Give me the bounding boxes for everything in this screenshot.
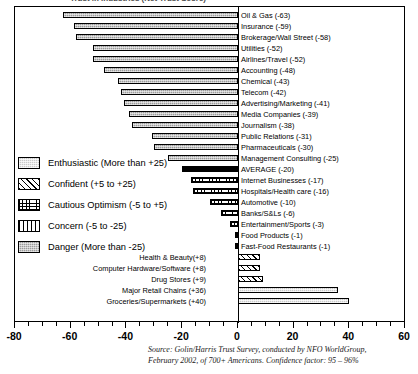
legend-swatch-confident bbox=[18, 178, 40, 190]
legend-swatch-enthusiastic bbox=[18, 157, 40, 169]
axis-tick-minor bbox=[334, 322, 335, 326]
x-axis-tick-label: -20 bbox=[174, 330, 189, 342]
legend-swatch-danger bbox=[18, 241, 40, 253]
bar-row: Major Retail Chains (+36) bbox=[15, 285, 404, 296]
axis-tick-minor bbox=[28, 322, 29, 326]
axis-tick-minor bbox=[251, 322, 252, 326]
axis-tick-major bbox=[293, 322, 294, 328]
bar bbox=[238, 298, 349, 304]
axis-tick-minor bbox=[112, 322, 113, 326]
legend-item[interactable]: Enthusiastic (More than +25) bbox=[18, 155, 208, 176]
bar bbox=[210, 199, 238, 205]
axis-tick-major bbox=[181, 322, 182, 328]
clipped-chart-title: Trust in Industries (Net Trust Score) bbox=[0, 0, 418, 5]
x-axis-tick-label: -60 bbox=[62, 330, 77, 342]
x-axis-tick-label: -40 bbox=[118, 330, 133, 342]
bar-category-label: Fast-Food Restaurants (-1) bbox=[241, 241, 330, 252]
x-axis-tick-label: -80 bbox=[6, 330, 21, 342]
bar bbox=[238, 254, 260, 260]
bar bbox=[76, 34, 238, 40]
bar-category-label: Pharmaceuticals (-30) bbox=[241, 142, 313, 153]
bar-category-label: Food Products (-1) bbox=[241, 230, 303, 241]
legend-item[interactable]: Danger (More than -25) bbox=[18, 239, 208, 260]
bar-category-label: Brokerage/Wall Street (-58) bbox=[241, 32, 331, 43]
bar-category-label: Hospitals/Health care (-16) bbox=[241, 186, 329, 197]
bar-category-label: Management Consulting (-25) bbox=[241, 153, 339, 164]
bar-category-label: Major Retail Chains (+36) bbox=[122, 285, 206, 296]
bar bbox=[132, 122, 238, 128]
axis-tick-minor bbox=[362, 322, 363, 326]
bar-category-label: Journalism (-38) bbox=[241, 120, 294, 131]
bar-row: Airlines/Travel (-52) bbox=[15, 54, 404, 65]
axis-tick-minor bbox=[209, 322, 210, 326]
bar bbox=[238, 287, 338, 293]
axis-tick-major bbox=[348, 322, 349, 328]
legend-swatch-concern bbox=[18, 220, 40, 232]
bar-row: Computer Hardware/Software (+8) bbox=[15, 263, 404, 274]
bar bbox=[121, 89, 238, 95]
bar-category-label: Chemical (-43) bbox=[241, 76, 289, 87]
bar bbox=[235, 243, 238, 249]
axis-tick-minor bbox=[195, 322, 196, 326]
axis-tick-minor bbox=[98, 322, 99, 326]
legend-label: Cautious Optimism (-5 to +5) bbox=[48, 197, 167, 214]
bar bbox=[63, 12, 239, 18]
axis-tick-minor bbox=[167, 322, 168, 326]
chart-legend: Enthusiastic (More than +25)Confident (+… bbox=[18, 155, 208, 260]
bar-category-label: Drug Stores (+9) bbox=[151, 274, 206, 285]
bar-row: Groceries/Supermarkets (+40) bbox=[15, 296, 404, 307]
x-axis-tick-label: 40 bbox=[342, 330, 354, 342]
bar-row: Accounting (-48) bbox=[15, 65, 404, 76]
source-line-1: Source: Golin/Harris Trust Survey, condu… bbox=[148, 345, 414, 356]
bar-category-label: Oil & Gas (-63) bbox=[241, 10, 290, 21]
bar bbox=[221, 210, 238, 216]
bar-row: Utilities (-52) bbox=[15, 43, 404, 54]
bar-category-label: Advertising/Marketing (-41) bbox=[241, 98, 330, 109]
axis-tick-minor bbox=[307, 322, 308, 326]
bar bbox=[93, 56, 238, 62]
source-line-2: February 2002, of 700+ Americans. Confid… bbox=[148, 356, 414, 367]
bar-row: Oil & Gas (-63) bbox=[15, 10, 404, 21]
bar-row: Pharmaceuticals (-30) bbox=[15, 142, 404, 153]
bar bbox=[124, 100, 238, 106]
bar-row: Insurance (-59) bbox=[15, 21, 404, 32]
axis-tick-minor bbox=[279, 322, 280, 326]
axis-tick-minor bbox=[376, 322, 377, 326]
legend-label: Enthusiastic (More than +25) bbox=[48, 155, 167, 172]
x-axis-tick-label: 20 bbox=[287, 330, 299, 342]
bar-category-label: Banks/S&Ls (-6) bbox=[241, 208, 295, 219]
bar-row: Brokerage/Wall Street (-58) bbox=[15, 32, 404, 43]
legend-item[interactable]: Cautious Optimism (-5 to +5) bbox=[18, 197, 208, 218]
axis-tick-minor bbox=[223, 322, 224, 326]
bar-row: Journalism (-38) bbox=[15, 120, 404, 131]
bar bbox=[152, 133, 238, 139]
x-axis-ticks bbox=[14, 322, 405, 329]
axis-tick-major bbox=[237, 322, 238, 328]
x-axis-labels: -80-60-40-200204060 bbox=[0, 330, 418, 344]
axis-tick-minor bbox=[153, 322, 154, 326]
bar-row: Telecom (-42) bbox=[15, 87, 404, 98]
bar-category-label: Accounting (-48) bbox=[241, 65, 295, 76]
bar-category-label: Computer Hardware/Software (+8) bbox=[93, 263, 206, 274]
bar-category-label: Entertainment/Sports (-3) bbox=[241, 219, 324, 230]
axis-tick-major bbox=[404, 322, 405, 328]
axis-tick-minor bbox=[390, 322, 391, 326]
bar bbox=[93, 45, 238, 51]
bar bbox=[230, 221, 238, 227]
legend-item[interactable]: Concern (-5 to -25) bbox=[18, 218, 208, 239]
axis-tick-minor bbox=[56, 322, 57, 326]
legend-item[interactable]: Confident (+5 to +25) bbox=[18, 176, 208, 197]
bar-row: Chemical (-43) bbox=[15, 76, 404, 87]
bar-row: Advertising/Marketing (-41) bbox=[15, 98, 404, 109]
axis-tick-major bbox=[125, 322, 126, 328]
bar-category-label: Automotive (-10) bbox=[241, 197, 296, 208]
bar-category-label: Internet Businesses (-17) bbox=[241, 175, 324, 186]
axis-tick-minor bbox=[320, 322, 321, 326]
bar bbox=[238, 276, 263, 282]
bar-category-label: Airlines/Travel (-52) bbox=[241, 54, 305, 65]
legend-label: Danger (More than -25) bbox=[48, 239, 145, 256]
source-note: Source: Golin/Harris Trust Survey, condu… bbox=[148, 345, 414, 366]
axis-tick-minor bbox=[42, 322, 43, 326]
bar-row: Media Companies (-39) bbox=[15, 109, 404, 120]
bar bbox=[238, 265, 260, 271]
